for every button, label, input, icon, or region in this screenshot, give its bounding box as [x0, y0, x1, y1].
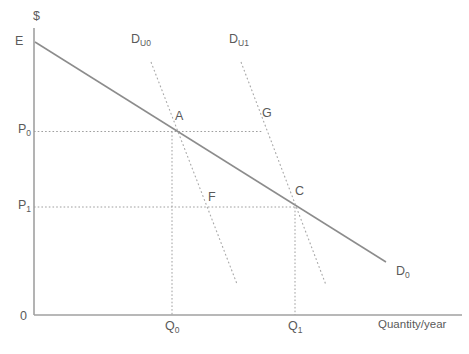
demand-curve-figure: $ E P0 P1 0 Q0 Q1 Quantity/year A G F C …: [0, 0, 469, 354]
price-tick-p0: P0: [18, 123, 31, 136]
curve-label-d0-base: D: [396, 264, 405, 278]
curve-label-du0-base: D: [131, 32, 140, 46]
curve-label-du0: DU0: [131, 33, 151, 46]
point-label-c: C: [295, 185, 304, 198]
price-tick-p1: P1: [18, 199, 31, 212]
price-tick-p1-sub: 1: [26, 204, 31, 214]
quantity-tick-q1: Q1: [288, 320, 303, 333]
quantity-tick-q0-sub: 0: [175, 325, 180, 335]
x-axis-title: Quantity/year: [378, 319, 446, 331]
curve-label-du0-sub: U0: [140, 38, 151, 48]
curve-label-du1-sub: U1: [238, 38, 249, 48]
demand-curve-d0: [35, 42, 386, 262]
origin-label: 0: [20, 310, 27, 323]
quantity-tick-q1-base: Q: [288, 319, 298, 333]
point-label-g: G: [262, 107, 272, 120]
curve-label-du1: DU1: [229, 33, 249, 46]
chart-canvas: [0, 0, 469, 354]
curve-label-d0: D0: [396, 265, 410, 278]
quantity-tick-q0: Q0: [165, 320, 180, 333]
price-tick-p0-sub: 0: [26, 128, 31, 138]
y-axis-unit-label: $: [33, 10, 40, 23]
demand-curve-du1: [241, 62, 326, 285]
curve-label-du1-base: D: [229, 32, 238, 46]
quantity-tick-q1-sub: 1: [298, 325, 303, 335]
demand-curve-du0: [151, 62, 237, 284]
point-label-f: F: [208, 191, 216, 204]
point-label-a: A: [175, 110, 183, 123]
quantity-tick-q0-base: Q: [165, 319, 175, 333]
point-label-e: E: [15, 35, 23, 48]
curve-label-d0-sub: 0: [405, 270, 410, 280]
